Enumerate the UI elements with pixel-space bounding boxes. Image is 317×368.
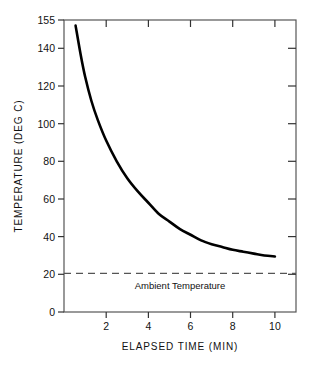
ambient-temperature-label: Ambient Temperature xyxy=(135,280,226,291)
y-tick-label-0: 0 xyxy=(49,306,55,318)
x-axis-title: ELAPSED TIME (MIN) xyxy=(122,341,239,352)
y-tick-label-80: 80 xyxy=(43,155,55,167)
y-tick-label-40: 40 xyxy=(43,231,55,243)
y-tick-label-20: 20 xyxy=(43,268,55,280)
x-tick-label-2: 2 xyxy=(103,320,109,332)
x-tick-label-4: 4 xyxy=(145,320,151,332)
y-tick-label-60: 60 xyxy=(43,193,55,205)
y-tick-label-100: 100 xyxy=(37,118,55,130)
chart-figure: 155 140 120 100 80 60 40 20 0 2 4 6 8 10… xyxy=(0,0,317,368)
chart-background xyxy=(0,0,317,368)
x-tick-label-6: 6 xyxy=(188,320,194,332)
y-tick-label-120: 120 xyxy=(37,80,55,92)
y-axis-title: TEMPERATURE (DEG C) xyxy=(13,99,24,232)
y-tick-label-155: 155 xyxy=(37,14,55,26)
chart-svg: 155 140 120 100 80 60 40 20 0 2 4 6 8 10… xyxy=(0,0,317,368)
x-tick-label-8: 8 xyxy=(230,320,236,332)
x-tick-label-10: 10 xyxy=(269,320,281,332)
y-tick-label-140: 140 xyxy=(37,42,55,54)
